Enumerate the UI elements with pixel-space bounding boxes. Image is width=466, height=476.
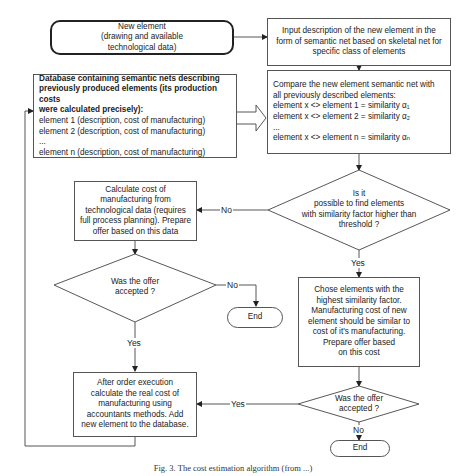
node-text: threshold ?: [288, 220, 430, 230]
node-chose-elements: Chose elements with the highest similari…: [298, 277, 420, 367]
edge-label-offer-left-no: No: [226, 280, 239, 290]
edge-label-similarity-no: No: [220, 205, 233, 215]
edge-label-offer-left-yes: Yes: [126, 338, 142, 348]
edge-label-similarity-yes: Yes: [350, 258, 366, 268]
node-end-bottom: End: [330, 440, 390, 457]
node-text: Is it: [288, 189, 430, 199]
node-text: technological data): [56, 43, 228, 54]
database-item: element 2 (description, cost of manufact…: [39, 127, 205, 138]
decision-offer-right-text: Was the offer accepted ?: [319, 394, 399, 415]
node-text: all previously described elements:: [273, 91, 396, 102]
node-text: ...: [273, 123, 280, 134]
node-text: on this cost: [301, 348, 417, 359]
edge-label-offer-right-yes: Yes: [230, 399, 246, 409]
node-text: Chose elements with the: [301, 285, 417, 296]
node-text: Compare the new element semantic net wit…: [273, 80, 435, 91]
node-text: (drawing and available: [56, 32, 228, 43]
node-text: with similarity factor higher than: [288, 210, 430, 220]
database-title: Database containing semantic nets descri…: [39, 74, 220, 85]
node-text: accepted ?: [95, 287, 175, 297]
node-text: element x <> element 1 = similarity α₁: [273, 101, 410, 112]
node-text: technological data (requires: [77, 206, 194, 217]
node-calculate-cost: Calculate cost of manufacturing from tec…: [74, 181, 197, 241]
node-text: End: [232, 312, 278, 323]
node-after-order: After order execution calculate the real…: [73, 372, 197, 437]
node-text: manufacturing from: [77, 195, 194, 206]
database-item: ...: [39, 137, 46, 148]
edge-label-offer-right-no: No: [352, 425, 365, 435]
block-arrow: [236, 105, 266, 131]
node-text: Was the offer: [95, 277, 175, 287]
node-database: Database containing semantic nets descri…: [33, 74, 237, 158]
node-compare: Compare the new element semantic net wit…: [267, 70, 451, 154]
node-text: element should be similar to: [301, 317, 417, 328]
node-text: After order execution: [76, 378, 194, 389]
node-text: highest similarity factor.: [301, 296, 417, 307]
database-title: were calculated precisely):: [39, 105, 143, 116]
decision-similarity-text: Is it possible to find elements with sim…: [288, 189, 430, 231]
node-text: element x <> element 2 = similarity α₂: [273, 112, 410, 123]
node-text: new element to the database.: [76, 420, 194, 431]
node-text: specific class of elements: [272, 47, 446, 58]
node-text: Manufacturing cost of new: [301, 306, 417, 317]
node-input-description: Input description of the new element in …: [267, 18, 451, 66]
node-text: End: [335, 443, 385, 454]
node-text: accountants methods. Add: [76, 410, 194, 421]
node-text: possible to find elements: [288, 199, 430, 209]
node-text: Prepare offer based: [301, 338, 417, 349]
node-text: cost of it's manufacturing.: [301, 327, 417, 338]
decision-offer-left-text: Was the offer accepted ?: [95, 277, 175, 298]
node-text: offer based on this data: [77, 227, 194, 238]
node-text: New element: [56, 22, 228, 33]
node-text: Was the offer: [319, 394, 399, 404]
node-text: full process planning). Prepare: [77, 216, 194, 227]
node-text: element x <> element n = similarity αₙ: [273, 133, 410, 144]
figure-caption: Fig. 3. The cost estimation algorithm (f…: [0, 463, 466, 473]
node-new-element: New element (drawing and available techn…: [50, 20, 234, 55]
node-text: manufacturing using: [76, 399, 194, 410]
node-end-left: End: [227, 307, 283, 328]
node-text: form of semantic net based on skeletal n…: [272, 37, 446, 48]
node-text: calculate the real cost of: [76, 389, 194, 400]
database-item: element 1 (description, cost of manufact…: [39, 116, 205, 127]
database-title: previously produced elements (its produc…: [39, 84, 232, 105]
node-text: Input description of the new element in …: [272, 26, 446, 37]
node-text: Calculate cost of: [77, 185, 194, 196]
database-item: element n (description, cost of manufact…: [39, 148, 205, 159]
node-text: accepted ?: [319, 404, 399, 414]
